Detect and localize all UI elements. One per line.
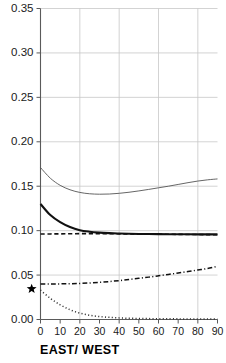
x-tick-label-7: 70 (172, 325, 184, 337)
x-tick-label-9: 90 (212, 325, 224, 337)
annotations (27, 284, 37, 293)
series-thick-solid-middle (41, 204, 218, 234)
y-tick-label-4: 0.20 (11, 135, 33, 147)
x-tick-label-2: 20 (74, 325, 86, 337)
x-tick-label-0: 0 (38, 325, 44, 337)
x-tick-label-6: 60 (153, 325, 165, 337)
tick-marks (37, 9, 218, 324)
series-thin-solid-upper (41, 168, 218, 195)
x-tick-label-4: 40 (113, 325, 125, 337)
y-tick-label-1: 0.05 (11, 269, 33, 281)
y-tick-label-7: 0.35 (11, 2, 33, 14)
chart-container: 0.000.050.100.150.200.250.300.35 0102030… (0, 0, 226, 363)
y-tick-label-3: 0.15 (11, 180, 33, 192)
x-tick-label-3: 30 (94, 325, 106, 337)
series-dotted-decaying (41, 290, 218, 319)
x-tick-label-8: 80 (192, 325, 204, 337)
gridlines (41, 9, 218, 320)
data-series (41, 168, 218, 320)
x-axis-tick-labels: 0102030405060708090 (38, 325, 224, 337)
line-chart: 0.000.050.100.150.200.250.300.35 0102030… (0, 0, 226, 363)
y-tick-label-6: 0.30 (11, 46, 33, 58)
y-tick-label-2: 0.10 (11, 224, 33, 236)
y-tick-label-5: 0.25 (11, 91, 33, 103)
x-axis-title: EAST/ WEST (40, 343, 119, 357)
x-tick-label-5: 50 (133, 325, 145, 337)
x-tick-label-1: 10 (54, 325, 66, 337)
y-tick-label-0: 0.00 (11, 313, 33, 325)
axes (41, 9, 218, 320)
y-axis-tick-labels: 0.000.050.100.150.200.250.300.35 (11, 2, 33, 325)
star-marker (27, 284, 37, 293)
